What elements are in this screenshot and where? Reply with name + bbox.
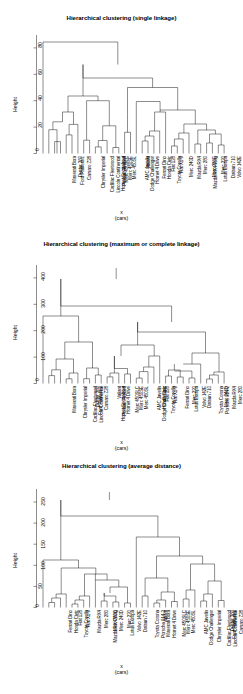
leaf-label: Fiat X1-9: [173, 386, 178, 403]
leaf-label: Ferrari Dino: [161, 156, 166, 179]
leaf-label: Merc 280C: [113, 610, 118, 631]
leaf-label: Merc 280: [104, 610, 109, 628]
y-tick-400-complete: 400: [40, 272, 46, 281]
leaf-label: Merc 230: [127, 610, 132, 628]
leaf-label: Chrysler Imperial: [101, 156, 106, 188]
leaf-label: Duster 360: [78, 156, 83, 177]
y-tick-200-complete: 200: [40, 325, 46, 334]
y-tick-0-average: 0: [34, 604, 40, 607]
leaf-label: Hornet 4 Drive: [172, 610, 177, 638]
leaf-label: Merc 240D: [224, 386, 229, 407]
leaf-label: Ferrari Dino: [68, 610, 73, 633]
dendrogram-panel-average-distance: Hierarchical clustering (average distanc…: [0, 456, 243, 694]
leaf-label: Valiant: [116, 386, 121, 399]
leaf-label: Cadillac Fleetwood: [111, 156, 116, 192]
leaf-label: Datsun 710: [231, 156, 236, 178]
y-axis-label-complete: Height: [12, 325, 18, 340]
leaf-label: Camaro Z28: [104, 386, 109, 410]
plot-title-average-distance: Hierarchical clustering (average distanc…: [0, 462, 243, 469]
leaf-label: Camaro Z28: [87, 156, 92, 180]
y-tick-0-complete: 0: [34, 378, 40, 381]
leaf-label: Hornet 4 Drive: [155, 156, 160, 184]
leaf-label: Duster 360: [95, 386, 100, 407]
leaf-label: Chrysler Imperial: [218, 610, 223, 642]
y-axis-ticks-complete: [34, 278, 37, 384]
leaf-label: Fiat 128: [166, 386, 171, 401]
leaf-label: Valiant: [146, 156, 151, 169]
leaf-label: Merc 280: [203, 156, 208, 174]
y-tick-20-single: 20: [37, 122, 43, 128]
dendrogram-panel-complete-linkage: Hierarchical clustering (maximum or comp…: [0, 228, 243, 460]
dendrogram-tree-average: [43, 492, 224, 608]
leaf-label: Maserati Bora: [72, 386, 77, 413]
leaf-label: Volvo 142E: [201, 386, 206, 408]
leaf-label: Merc 450SL: [191, 610, 196, 633]
y-tick-40-single: 40: [37, 95, 43, 101]
dendrogram-svg-average: [0, 456, 243, 694]
leaf-label: Merc 230: [221, 156, 226, 174]
leaf-label: Ferrari Dino: [185, 386, 190, 409]
dendrogram-svg-complete: [0, 228, 243, 460]
y-tick-60-single: 60: [37, 69, 43, 75]
leaf-label: Merc 450SE: [186, 610, 191, 634]
leaf-label: Datsun 710: [207, 386, 212, 408]
leaf-label: Fiat 128: [78, 610, 83, 625]
y-tick-50-average: 50: [37, 583, 43, 589]
dendrogram-svg-single: [0, 0, 243, 232]
x-axis-label-line2-complete: (cars): [0, 445, 243, 451]
leaf-label: Fiat X1-9: [179, 156, 184, 173]
plot-title-complete-linkage: Hierarchical clustering (maximum or comp…: [0, 240, 243, 247]
dendrogram-panel-single-linkage: Hierarchical clustering (single linkage)…: [0, 0, 243, 232]
leaf-label: Chrysler Imperial: [83, 386, 88, 418]
leaf-label: Merc 240D: [119, 610, 124, 631]
y-tick-150-average: 150: [40, 540, 46, 549]
y-tick-80-single: 80: [37, 42, 43, 48]
y-axis-label-single: Height: [12, 97, 18, 112]
leaf-label: Merc 450SL: [144, 386, 149, 409]
x-axis-label-line2-single: (cars): [0, 215, 243, 221]
leaf-label: Merc 450SL: [133, 156, 138, 179]
y-tick-250-average: 250: [40, 497, 46, 506]
dendrogram-tree-complete: [43, 268, 224, 384]
leaf-label: Camaro Z28: [239, 610, 243, 634]
leaf-label: Fiat X1-9: [86, 610, 91, 627]
leaf-label: Mazda RX4: [97, 610, 102, 633]
y-tick-100-complete: 100: [40, 352, 46, 361]
leaf-label: Toyota Corona: [155, 610, 160, 638]
x-axis-label-line2-average: (cars): [0, 669, 243, 675]
y-axis-label-average: Height: [12, 553, 18, 568]
y-tick-100-average: 100: [40, 561, 46, 570]
dendrogram-figure-page: Hierarchical clustering (single linkage)…: [0, 0, 243, 694]
y-tick-300-complete: 300: [40, 299, 46, 308]
y-tick-0-single: 0: [34, 148, 40, 151]
plot-title-single-linkage: Hierarchical clustering (single linkage): [0, 14, 243, 21]
leaf-label: Volvo 142E: [236, 156, 241, 178]
leaf-label: AMC Javelin: [204, 610, 209, 634]
leaf-label: Mazda RX4: [231, 386, 236, 409]
leaf-label: Valiant: [163, 610, 168, 623]
leaf-label: Maserati Bora: [72, 156, 77, 183]
leaf-label: Merc 280C: [212, 156, 217, 177]
leaf-label: Fiat 128: [172, 156, 177, 171]
y-tick-200-average: 200: [40, 518, 46, 527]
leaf-label: Merc 230: [192, 386, 197, 404]
leaf-label: Merc 280: [238, 386, 243, 404]
leaf-label: Volvo 142E: [137, 610, 142, 632]
dendrogram-tree-single: [43, 42, 224, 154]
leaf-label: Datsun 710: [143, 610, 148, 632]
leaf-label: Hornet 4 Drive: [125, 386, 130, 414]
y-axis-ticks-average: [34, 502, 37, 608]
leaf-label: Merc 240D: [189, 156, 194, 177]
leaf-label: Merc 450SE: [139, 386, 144, 410]
leaf-label: Mazda RX4: [196, 156, 201, 179]
leaf-label: Duster 360: [230, 610, 235, 631]
